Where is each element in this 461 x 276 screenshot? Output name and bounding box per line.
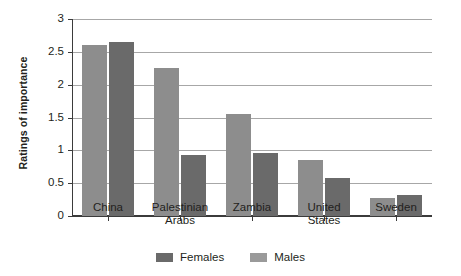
bar-females-china: [109, 42, 134, 216]
y-tick-mark: [68, 216, 73, 217]
legend-item-females[interactable]: Females: [156, 252, 224, 264]
y-tick-label: 2.5: [48, 46, 64, 58]
legend-label: Males: [274, 252, 305, 264]
bar-males-china: [82, 45, 107, 216]
y-tick-label: 1: [58, 145, 64, 157]
x-category-label-line: Arabs: [144, 214, 216, 227]
x-category-label: China: [72, 201, 144, 214]
bar-group: [360, 19, 432, 216]
x-category-label: Sweden: [360, 201, 432, 214]
legend-item-males[interactable]: Males: [250, 252, 305, 264]
x-category-label: Zambia: [216, 201, 288, 214]
x-category-label-line: Palestinian: [144, 201, 216, 214]
bar-chart-figure: Ratings of importance 00.511.522.53 Chin…: [0, 0, 461, 276]
y-tick-label: 1.5: [48, 112, 64, 124]
x-category-label: UnitedStates: [288, 201, 360, 227]
x-category-label-line: United: [288, 201, 360, 214]
legend-swatch-icon: [250, 253, 267, 262]
legend-swatch-icon: [156, 253, 173, 262]
bar-males-palestinian-arabs: [154, 68, 179, 216]
x-category-label-line: States: [288, 214, 360, 227]
x-tick-mark: [252, 217, 253, 221]
bar-group: [144, 19, 216, 216]
y-tick-label: 3: [58, 13, 64, 25]
y-tick-label: 0: [58, 210, 64, 222]
bar-group: [72, 19, 144, 216]
x-category-label: PalestinianArabs: [144, 201, 216, 227]
x-tick-mark: [396, 217, 397, 221]
y-tick-label: 2: [58, 79, 64, 91]
y-axis-title: Ratings of importance: [17, 13, 29, 213]
x-category-label-line: Zambia: [216, 201, 288, 214]
chart-legend: FemalesMales: [0, 252, 461, 264]
x-category-label-line: China: [72, 201, 144, 214]
y-tick-label: 0.5: [48, 177, 64, 189]
x-category-label-line: Sweden: [360, 201, 432, 214]
bar-group: [288, 19, 360, 216]
bar-group: [216, 19, 288, 216]
x-tick-mark: [108, 217, 109, 221]
legend-label: Females: [180, 252, 224, 264]
plot-area: 00.511.522.53: [72, 19, 432, 216]
